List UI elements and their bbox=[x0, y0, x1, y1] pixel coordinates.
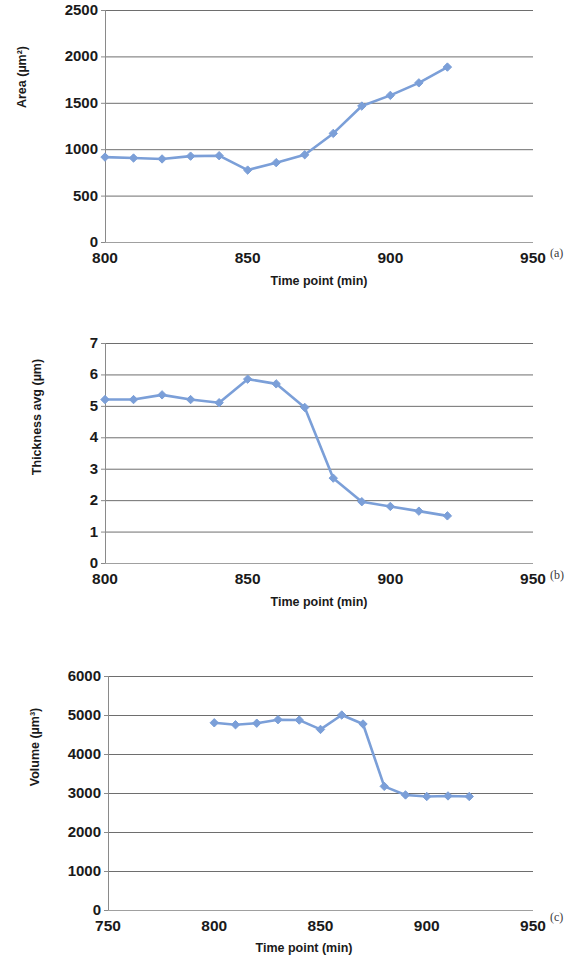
panel-c-letter: (c) bbox=[550, 910, 563, 925]
data-series-line bbox=[214, 715, 469, 797]
data-point-marker bbox=[243, 166, 251, 174]
y-tick-label: 4 bbox=[90, 428, 99, 445]
y-tick-label: 2000 bbox=[65, 47, 98, 64]
x-tick-label: 800 bbox=[201, 917, 227, 934]
x-tick-label: 950 bbox=[520, 570, 546, 587]
y-tick-label: 1000 bbox=[68, 862, 101, 879]
y-tick-label: 6 bbox=[90, 365, 98, 382]
panel-b-series-canvas: 01234567800850900950 bbox=[0, 330, 577, 620]
y-tick-label: 2500 bbox=[65, 1, 98, 18]
panel-a-plot: 05001000150020002500800850900950 bbox=[0, 0, 577, 260]
data-point-marker bbox=[401, 791, 409, 799]
y-tick-label: 5 bbox=[90, 397, 98, 414]
data-point-marker bbox=[386, 502, 394, 510]
data-point-marker bbox=[129, 395, 137, 403]
panel-a-letter: (a) bbox=[550, 246, 563, 261]
x-tick-label: 950 bbox=[520, 917, 546, 934]
data-point-marker bbox=[158, 155, 166, 163]
y-tick-label: 0 bbox=[90, 554, 98, 571]
y-tick-label: 1500 bbox=[65, 94, 98, 111]
data-point-marker bbox=[101, 153, 109, 161]
y-tick-label: 0 bbox=[90, 233, 98, 250]
y-tick-label: 0 bbox=[93, 901, 101, 918]
y-tick-label: 2 bbox=[90, 491, 98, 508]
x-tick-label: 850 bbox=[235, 249, 261, 266]
x-tick-label: 900 bbox=[414, 917, 440, 934]
x-tick-label: 750 bbox=[95, 917, 121, 934]
panel-c-x-axis-label: Time point (min) bbox=[75, 941, 533, 955]
x-tick-label: 900 bbox=[377, 570, 403, 587]
data-point-marker bbox=[415, 507, 423, 515]
data-point-marker bbox=[158, 391, 166, 399]
data-point-marker bbox=[272, 158, 280, 166]
y-tick-label: 6000 bbox=[68, 667, 101, 684]
data-point-marker bbox=[295, 716, 303, 724]
data-point-marker bbox=[129, 154, 137, 162]
panel-b-x-axis-label: Time point (min) bbox=[105, 595, 533, 609]
data-point-marker bbox=[186, 152, 194, 160]
data-point-marker bbox=[444, 792, 452, 800]
y-tick-label: 500 bbox=[73, 187, 98, 204]
data-series-line bbox=[105, 67, 447, 170]
x-tick-label: 800 bbox=[92, 249, 118, 266]
data-point-marker bbox=[443, 512, 451, 520]
panel-c-series-canvas: 0100020003000400050006000750800850900950 bbox=[0, 660, 577, 960]
panel-b-letter: (b) bbox=[550, 568, 564, 583]
data-point-marker bbox=[253, 719, 261, 727]
panel-b-plot: 01234567800850900950 bbox=[0, 330, 577, 580]
y-tick-label: 7 bbox=[90, 334, 98, 351]
y-tick-label: 3000 bbox=[68, 784, 101, 801]
panel-c: Volume (µm³) 010002000300040005000600075… bbox=[0, 660, 577, 979]
x-tick-label: 800 bbox=[92, 570, 118, 587]
data-series-line bbox=[105, 379, 447, 516]
y-tick-label: 3 bbox=[90, 460, 98, 477]
y-tick-label: 4000 bbox=[68, 745, 101, 762]
y-tick-label: 5000 bbox=[68, 706, 101, 723]
data-point-marker bbox=[386, 91, 394, 99]
x-tick-label: 850 bbox=[235, 570, 261, 587]
data-point-marker bbox=[359, 720, 367, 728]
y-tick-label: 2000 bbox=[68, 823, 101, 840]
data-point-marker bbox=[210, 719, 218, 727]
panel-a-series-canvas: 05001000150020002500800850900950 bbox=[0, 0, 577, 300]
x-tick-label: 950 bbox=[520, 249, 546, 266]
data-point-marker bbox=[274, 715, 282, 723]
data-point-marker bbox=[186, 395, 194, 403]
panel-b: Thickness avg (µm) 01234567800850900950 … bbox=[0, 330, 577, 640]
panel-a-x-axis-label: Time point (min) bbox=[105, 274, 533, 288]
y-tick-label: 1000 bbox=[65, 140, 98, 157]
data-point-marker bbox=[380, 782, 388, 790]
panel-c-plot: 0100020003000400050006000750800850900950 bbox=[0, 660, 577, 920]
data-point-marker bbox=[231, 721, 239, 729]
panel-a: Area (µm²) 05001000150020002500800850900… bbox=[0, 0, 577, 310]
y-tick-label: 1 bbox=[90, 523, 98, 540]
x-tick-label: 850 bbox=[308, 917, 334, 934]
x-tick-label: 900 bbox=[377, 249, 403, 266]
data-point-marker bbox=[101, 395, 109, 403]
